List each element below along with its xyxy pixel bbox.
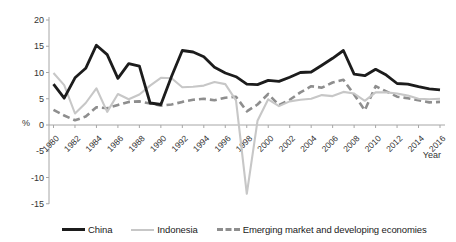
x-tick-label: 1986 (105, 133, 126, 154)
x-tick-label: 2002 (277, 133, 298, 154)
x-axis-title: Year (423, 150, 441, 160)
y-tick-label: -15 (31, 199, 44, 209)
x-tick-label: 1994 (191, 133, 212, 154)
china-line-swatch (62, 228, 85, 231)
series-line-china (54, 45, 441, 104)
x-tick-label: 2006 (320, 133, 341, 154)
indonesia-line-swatch (131, 229, 154, 231)
legend-label-indonesia: Indonesia (157, 224, 197, 235)
y-tick-label: 15 (34, 41, 44, 51)
x-tick-label: 1996 (212, 133, 233, 154)
x-tick-label: 1980 (40, 133, 61, 154)
x-tick-label: 1982 (62, 133, 83, 154)
x-tick-label: 1992 (169, 133, 190, 154)
emde-line-swatch (217, 228, 240, 231)
x-tick-label: 2004 (298, 133, 319, 154)
y-tick-label: 20 (34, 15, 44, 25)
x-tick-label: 1984 (83, 133, 104, 154)
x-tick-label: 2000 (255, 133, 276, 154)
series-line-emerging-market-and-developing-economies (54, 80, 441, 121)
x-tick-label: 2012 (384, 133, 405, 154)
x-tick-label: 1990 (148, 133, 169, 154)
legend-label-emde: Emerging market and developing economies (243, 224, 427, 235)
legend-item-china: China (62, 224, 112, 235)
y-tick-label: -10 (31, 173, 44, 183)
legend-item-emde: Emerging market and developing economies (217, 224, 427, 235)
y-tick-label: 10 (34, 68, 44, 78)
x-tick-label: 2008 (341, 133, 362, 154)
chart-legend: China Indonesia Emerging market and deve… (62, 224, 427, 235)
y-axis-title: % (22, 118, 30, 128)
y-tick-label: 0 (39, 120, 44, 130)
legend-label-china: China (88, 224, 112, 235)
gdp-growth-line-chart: 20151050-5-10-15198019821984198619881990… (0, 0, 456, 242)
x-tick-label: 1998 (234, 133, 255, 154)
y-tick-label: 5 (39, 94, 44, 104)
x-tick-label: 2010 (363, 133, 384, 154)
plot-area: 20151050-5-10-15198019821984198619881990… (0, 0, 456, 242)
x-tick-label: 1988 (126, 133, 147, 154)
legend-item-indonesia: Indonesia (131, 224, 197, 235)
